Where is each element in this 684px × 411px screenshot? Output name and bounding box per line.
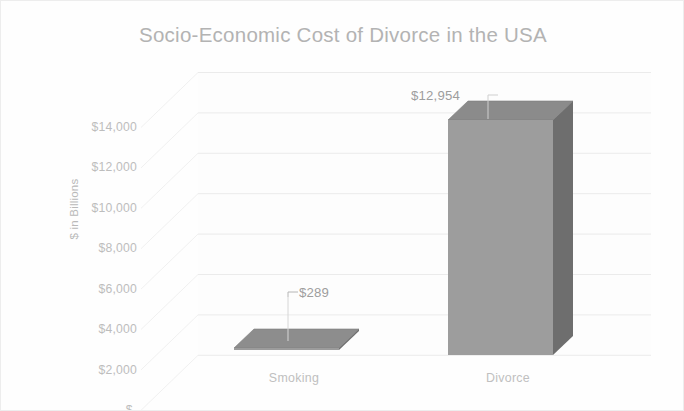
y-tick-8000: $8,000 [45, 241, 137, 255]
y-tick-2000: $2,000 [45, 363, 137, 377]
bar-divorce-top-face [448, 101, 573, 120]
y-tick-12000: $12,000 [45, 160, 137, 174]
x-tick-smoking: Smoking [219, 371, 369, 385]
chart-container: Socio-Economic Cost of Divorce in the US… [0, 0, 684, 411]
back-wall [198, 72, 651, 355]
bar-smoking-top-face [234, 329, 359, 348]
y-tick-4000: $4,000 [45, 322, 137, 336]
y-tick-6000: $6,000 [45, 282, 137, 296]
y-tick-10000: $10,000 [45, 201, 137, 215]
y-tick-0: $- [45, 403, 137, 411]
bar-smoking-front-face [234, 348, 339, 350]
x-tick-divorce: Divorce [433, 371, 583, 385]
bar-divorce-side-face [553, 101, 573, 355]
data-label-smoking: $289 [299, 285, 329, 300]
y-axis-tick-group: $14,000 $12,000 $10,000 $8,000 $6,000 $4… [45, 1, 137, 411]
data-label-divorce: $12,954 [411, 88, 460, 103]
y-tick-14000: $14,000 [45, 120, 137, 134]
bar-divorce-front-face [448, 120, 553, 355]
bar-divorce[interactable] [448, 101, 573, 355]
plot-walls [141, 72, 651, 410]
bar-smoking[interactable] [234, 329, 359, 350]
